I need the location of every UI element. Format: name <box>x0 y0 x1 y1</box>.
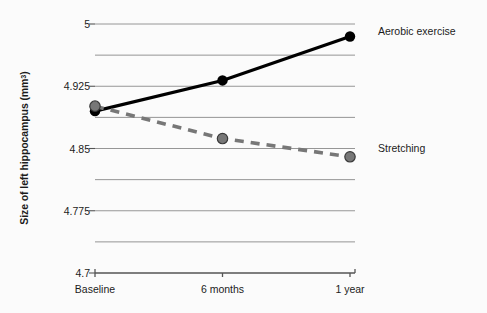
series-line <box>95 36 350 111</box>
series-label-aerobic-exercise: Aerobic exercise <box>378 26 456 37</box>
plot-area <box>0 0 487 313</box>
x-axis <box>95 269 355 277</box>
series-stretching <box>90 101 355 162</box>
line-chart: Size of left hippocampus (mm3) 4.74.7754… <box>0 0 487 313</box>
data-point <box>90 101 100 111</box>
gridlines <box>95 24 355 242</box>
data-point <box>217 133 227 143</box>
series-line <box>95 106 350 157</box>
data-point <box>217 75 227 85</box>
x-axis-tick-label: 6 months <box>201 284 244 295</box>
data-point <box>345 31 355 41</box>
x-axis-tick-label: 1 year <box>335 284 364 295</box>
data-point <box>345 152 355 162</box>
series-label-stretching: Stretching <box>378 143 425 154</box>
y-axis-ticks <box>89 24 95 273</box>
x-axis-tick-label: Baseline <box>75 284 115 295</box>
series-aerobic-exercise <box>90 31 355 116</box>
